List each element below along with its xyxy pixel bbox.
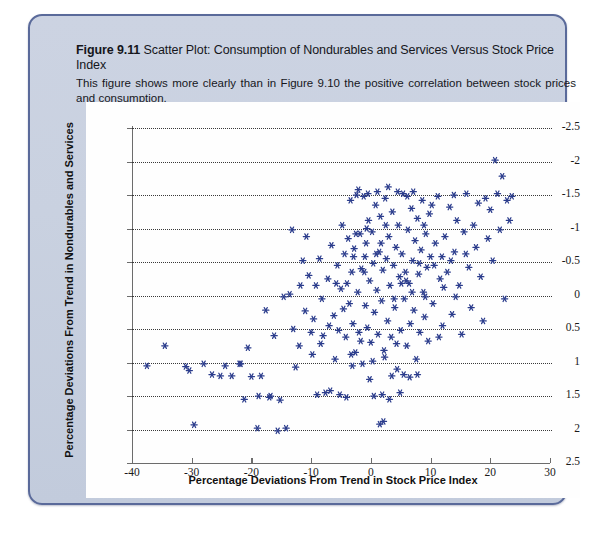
grid-line — [132, 296, 552, 297]
scatter-point — [432, 241, 438, 246]
y-tick-label: -1 — [540, 221, 580, 233]
x-tick-label: -30 — [172, 466, 212, 478]
x-tick-mark — [132, 458, 133, 463]
scatter-point — [470, 222, 476, 227]
scatter-point — [389, 209, 395, 214]
scatter-point — [404, 343, 410, 348]
scatter-point — [350, 321, 356, 326]
scatter-point — [374, 287, 380, 292]
x-tick-mark — [431, 458, 432, 463]
scatter-point — [416, 271, 422, 276]
figure-title-text: Scatter Plot: Consumption of Nondurables… — [76, 43, 554, 72]
scatter-point — [414, 372, 420, 377]
scatter-point — [357, 231, 363, 236]
x-tick-label: 10 — [411, 466, 451, 478]
scatter-point — [334, 263, 340, 268]
scatter-point — [473, 245, 479, 250]
scatter-point — [368, 340, 374, 345]
scatter-point — [414, 216, 420, 221]
scatter-point — [398, 281, 404, 286]
scatter-point — [373, 251, 379, 256]
scatter-point — [425, 338, 431, 343]
y-tick-label: -2 — [540, 154, 580, 166]
scatter-point — [389, 373, 395, 378]
grid-line — [132, 195, 552, 196]
scatter-point — [381, 354, 387, 359]
scatter-point — [303, 234, 309, 239]
scatter-point — [326, 323, 332, 328]
scatter-point — [355, 187, 361, 192]
scatter-point — [381, 348, 387, 353]
scatter-point — [504, 198, 510, 203]
scatter-point — [331, 313, 337, 318]
x-tick-label: 20 — [470, 466, 510, 478]
y-tick-label: -0.5 — [540, 254, 580, 266]
x-tick-mark — [550, 458, 551, 463]
scatter-point — [340, 306, 346, 311]
plot-panel: Percentage Deviations From Trend in Nond… — [86, 102, 580, 498]
scatter-point — [447, 204, 453, 209]
scatter-point — [349, 269, 355, 274]
y-tick-label: 0.5 — [540, 321, 580, 333]
scatter-point — [345, 236, 351, 241]
scatter-point — [396, 274, 402, 279]
scatter-point — [373, 202, 379, 207]
scatter-point — [358, 338, 364, 343]
scatter-point — [424, 265, 430, 270]
scatter-point — [328, 243, 334, 248]
scatter-point — [456, 283, 462, 288]
scatter-point — [346, 301, 352, 306]
scatter-point — [144, 363, 150, 368]
scatter-point — [310, 316, 316, 321]
scatter-point — [431, 263, 437, 268]
scatter-point — [229, 373, 235, 378]
grid-line — [132, 262, 552, 263]
scatter-point — [388, 334, 394, 339]
scatter-point — [408, 206, 414, 211]
scatter-point — [222, 363, 228, 368]
scatter-point — [316, 256, 322, 261]
grid-line — [132, 396, 552, 397]
scatter-point — [451, 249, 457, 254]
scatter-point — [186, 368, 192, 373]
x-tick-label: -20 — [231, 466, 271, 478]
scatter-point — [352, 350, 358, 355]
scatter-point — [393, 245, 399, 250]
scatter-point — [485, 236, 491, 241]
figure-box: Figure 9.11 Scatter Plot: Consumption of… — [28, 14, 567, 505]
scatter-point — [454, 218, 460, 223]
scatter-point — [341, 251, 347, 256]
scatter-point — [362, 254, 368, 259]
scatter-point — [401, 296, 407, 301]
scatter-point — [302, 308, 308, 313]
scatter-point — [365, 218, 371, 223]
scatter-point — [468, 305, 474, 310]
scatter-point — [463, 251, 469, 256]
scatter-point — [417, 330, 423, 335]
scatter-point — [369, 229, 375, 234]
scatter-point — [356, 330, 362, 335]
figure-title: Figure 9.11 Scatter Plot: Consumption of… — [76, 43, 581, 73]
scatter-point — [386, 234, 392, 239]
scatter-point — [361, 269, 367, 274]
scatter-point — [502, 296, 508, 301]
scatter-point — [487, 207, 493, 212]
scatter-point — [426, 211, 432, 216]
scatter-point — [297, 283, 303, 288]
scatter-point — [480, 318, 486, 323]
scatter-point — [362, 303, 368, 308]
scatter-point — [308, 330, 314, 335]
scatter-point — [407, 375, 413, 380]
grid-line — [132, 162, 552, 163]
scatter-point — [377, 214, 383, 219]
y-tick-label: 1 — [540, 355, 580, 367]
scatter-point — [442, 234, 448, 239]
scatter-point — [350, 254, 356, 259]
scatter-point — [407, 321, 413, 326]
scatter-point — [444, 269, 450, 274]
scatter-point — [333, 281, 339, 286]
scatter-point — [393, 341, 399, 346]
scatter-point — [309, 352, 315, 357]
scatter-point — [397, 390, 403, 395]
scatter-point — [319, 296, 325, 301]
